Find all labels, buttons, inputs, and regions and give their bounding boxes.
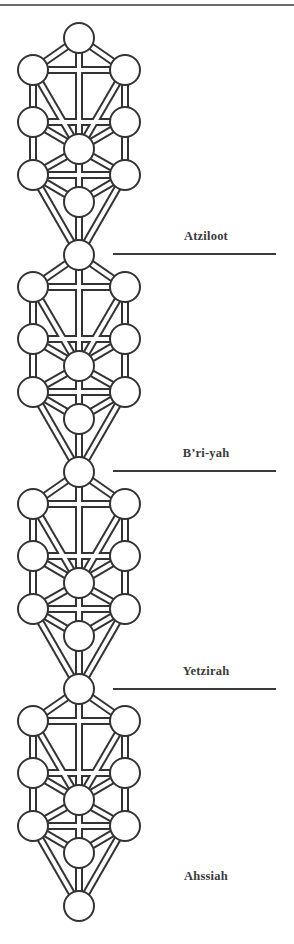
sefirah-node-chesed	[110, 107, 140, 137]
world-label-ahssiah: Ahssiah	[184, 869, 228, 884]
sefirah-node-hod	[18, 377, 48, 407]
sefirah-node-yesod	[64, 621, 94, 651]
sefirah-node-chesed	[110, 541, 140, 571]
sefirah-node-binah	[18, 489, 48, 519]
sefirah-node-hod	[18, 594, 48, 624]
sefirah-node-yesod	[64, 838, 94, 868]
sefirah-node-gevurah	[18, 324, 48, 354]
world-label-atziloot: Atziloot	[184, 229, 228, 244]
sefirah-node-binah	[18, 706, 48, 736]
sefirah-node-chokhmah	[110, 706, 140, 736]
sefirah-node-gevurah	[18, 107, 48, 137]
sefirah-node-tiferet	[64, 568, 94, 598]
sefirah-node-netzach	[110, 811, 140, 841]
sefirah-node-netzach	[110, 377, 140, 407]
sefirah-node-chokhmah	[110, 272, 140, 302]
sefirah-node-malkhut	[64, 457, 94, 487]
world-divider-atziloot	[113, 253, 276, 255]
world-label-briyah: B’ri-yah	[183, 446, 230, 461]
sefirah-node-yesod	[64, 187, 94, 217]
sefirah-node-binah	[18, 272, 48, 302]
world-divider-yetzirah	[113, 688, 276, 690]
world-divider-briyah	[113, 470, 276, 472]
sefirah-node-malkhut	[64, 240, 94, 270]
sefirah-node-binah	[18, 55, 48, 85]
sefirah-node-gevurah	[18, 541, 48, 571]
sefirah-node-tiferet	[64, 134, 94, 164]
sefirah-node-tiferet	[64, 785, 94, 815]
sefirah-node-malkhut	[64, 891, 94, 921]
sefirah-node-gevurah	[18, 758, 48, 788]
sefirah-node-hod	[18, 811, 48, 841]
sefirah-node-chesed	[110, 324, 140, 354]
sefirah-node-netzach	[110, 160, 140, 190]
sefirah-node-yesod	[64, 404, 94, 434]
stacked-tree-of-life-diagram	[0, 0, 294, 944]
sefirah-node-keter	[64, 23, 94, 53]
sefirah-node-hod	[18, 160, 48, 190]
sefirah-node-chesed	[110, 758, 140, 788]
sefirah-node-chokhmah	[110, 55, 140, 85]
sefirah-node-netzach	[110, 594, 140, 624]
sefirah-node-malkhut	[64, 674, 94, 704]
sefirah-node-chokhmah	[110, 489, 140, 519]
sefirah-node-tiferet	[64, 351, 94, 381]
world-label-yetzirah: Yetzirah	[183, 664, 230, 679]
